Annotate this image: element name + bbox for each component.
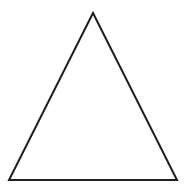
- canvas-background: [0, 0, 185, 189]
- figure-container: [0, 0, 185, 189]
- triangle-diagram-canvas: [0, 0, 185, 189]
